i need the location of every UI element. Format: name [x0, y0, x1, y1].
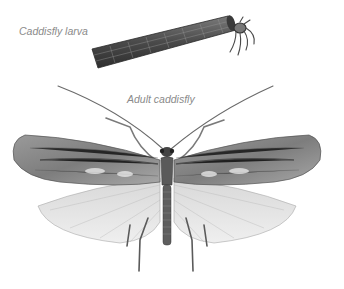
body — [160, 147, 174, 245]
larva-label: Caddisfly larva — [19, 25, 88, 37]
adult-label: Adult caddisfly — [127, 93, 195, 105]
larva-case — [92, 14, 237, 68]
caddisfly-illustration — [0, 0, 344, 289]
